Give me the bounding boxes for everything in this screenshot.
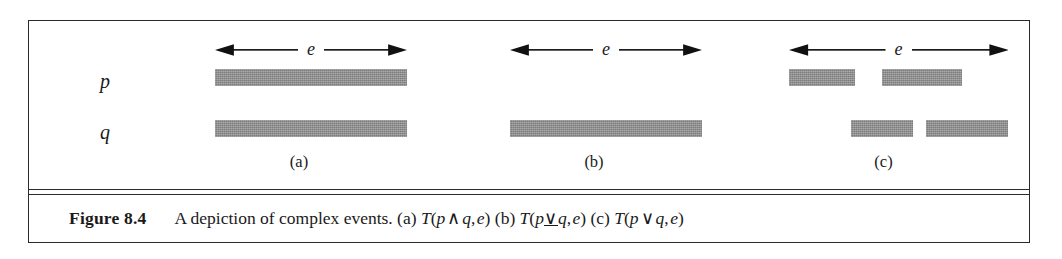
figure-artwork: p q e (a) xyxy=(29,21,1029,189)
caption-item-c-formula: T(p∨q, e) xyxy=(614,208,684,228)
caption-figure-number: Figure 8.4 xyxy=(69,208,147,228)
sub-label-b: (b) xyxy=(454,154,734,171)
event-extent-arrow-c: e xyxy=(741,39,1026,61)
sub-label-c: (c) xyxy=(741,154,1026,171)
caption-item-c-tag: (c) xyxy=(590,208,609,228)
bar-p-c-0 xyxy=(789,69,855,86)
bar-q-b-0 xyxy=(510,120,702,137)
caption-item-a-formula: T(p∧q, e) xyxy=(421,208,491,228)
caption-item-b-tag: (b) xyxy=(495,208,515,228)
arrow-left-head-icon xyxy=(215,43,298,57)
event-arrow-label-a: e xyxy=(298,40,324,58)
panel-a: e (a) xyxy=(159,21,439,189)
row-label-q: q xyxy=(100,122,110,142)
arrow-right-head-icon xyxy=(324,43,407,57)
panel-c: e (c) xyxy=(741,21,1026,189)
panel-b: e (b) xyxy=(454,21,734,189)
caption-item-a-tag: (a) xyxy=(397,208,416,228)
caption-region: Figure 8.4A depiction of complex events.… xyxy=(29,195,1029,242)
arrow-left-head-icon xyxy=(789,43,886,57)
event-extent-arrow-a: e xyxy=(159,39,439,61)
figure-caption: Figure 8.4A depiction of complex events.… xyxy=(29,210,684,228)
caption-lead-text: A depiction of complex events. xyxy=(175,208,393,228)
figure-frame: p q e (a) xyxy=(28,20,1030,243)
bar-q-c-0 xyxy=(851,120,913,137)
row-label-p: p xyxy=(100,71,110,91)
event-arrow-label-c: e xyxy=(886,40,912,58)
sub-label-a: (a) xyxy=(159,154,439,171)
bar-q-a-0 xyxy=(215,120,407,137)
arrow-right-head-icon xyxy=(619,43,702,57)
arrow-left-head-icon xyxy=(510,43,593,57)
bar-p-a-0 xyxy=(215,69,407,86)
event-extent-arrow-b: e xyxy=(454,39,734,61)
bar-p-c-1 xyxy=(882,69,962,86)
caption-item-b-formula: T(p∨q, e) xyxy=(520,208,587,228)
event-arrow-label-b: e xyxy=(593,40,619,58)
arrow-right-head-icon xyxy=(912,43,1009,57)
bar-q-c-1 xyxy=(926,120,1008,137)
